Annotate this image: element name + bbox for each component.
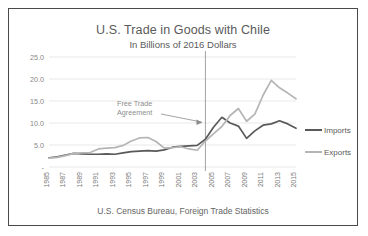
y-tick-label: 15.0 [30, 97, 44, 106]
annotation-line-2: Agreement [117, 108, 152, 117]
x-axis-tick-labels: 1985198719891991199319951997199920012003… [43, 172, 297, 188]
x-tick-label: 2009 [241, 172, 248, 188]
x-tick-label: 1989 [76, 172, 83, 188]
y-tick-label: 20.0 [30, 75, 44, 84]
legend-label-imports: Imports [324, 126, 351, 135]
line-chart-plot: 25.020.015.010.05.0- 1985198719891991199… [9, 9, 358, 226]
annotation-line-1: Free Trade [117, 99, 152, 108]
data-series-lines [49, 80, 296, 158]
x-tick-label: 1991 [92, 172, 99, 188]
y-tick-label: 10.0 [30, 119, 44, 128]
x-tick-label: 1987 [59, 172, 66, 188]
legend-label-exports: Exports [324, 148, 351, 157]
y-tick-label: 25.0 [30, 53, 44, 62]
y-axis-tick-labels: 25.020.015.010.05.0- [30, 53, 45, 172]
chart-frame: U.S. Trade in Goods with Chile In Billio… [8, 8, 358, 226]
source-note: U.S. Census Bureau, Foreign Trade Statis… [9, 206, 357, 216]
annotation-free-trade-agreement: Free TradeAgreement [117, 99, 202, 125]
y-tick-label: 5.0 [34, 141, 44, 150]
annotation-arrow-shaft [161, 114, 201, 122]
x-tick-label: 2013 [274, 172, 281, 188]
x-tick-label: 1995 [125, 172, 132, 188]
x-tick-label: 1985 [43, 172, 50, 188]
x-tick-label: 2007 [224, 172, 231, 188]
x-tick-label: 2015 [290, 172, 297, 188]
x-tick-label: 1999 [158, 172, 165, 188]
chart-legend: ImportsExports [305, 126, 351, 157]
gridlines [49, 57, 296, 167]
x-tick-label: 2011 [257, 172, 264, 187]
x-tick-label: 1993 [109, 172, 116, 188]
x-tick-label: 2003 [191, 172, 198, 188]
y-tick-label: - [42, 163, 45, 172]
annotation-arrow-head [196, 120, 202, 126]
x-tick-label: 1997 [142, 172, 149, 188]
x-tick-label: 2005 [208, 172, 215, 188]
x-tick-label: 2001 [175, 172, 182, 188]
